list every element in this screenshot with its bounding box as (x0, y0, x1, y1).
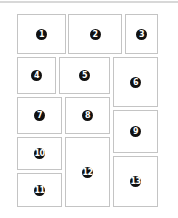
panel-number-badge: 13 (130, 176, 141, 187)
panel-number-badge: 5 (79, 70, 90, 81)
panel-number-badge: 4 (31, 70, 42, 81)
panel-6: 6 (113, 57, 158, 107)
panel-number-badge: 10 (34, 148, 45, 159)
panel-number-badge: 12 (82, 167, 93, 178)
panel-number-badge: 11 (34, 185, 45, 196)
panel-number-badge: 7 (34, 110, 45, 121)
top-divider (0, 1, 178, 3)
panel-1: 1 (17, 14, 66, 54)
panel-number-badge: 3 (136, 29, 147, 40)
panel-3: 3 (125, 14, 158, 54)
panel-10: 10 (17, 137, 62, 170)
panel-number-badge: 8 (82, 110, 93, 121)
panel-13: 13 (113, 156, 158, 207)
panel-8: 8 (65, 97, 110, 134)
panel-5: 5 (59, 57, 110, 94)
panel-11: 11 (17, 173, 62, 207)
panel-number-badge: 9 (130, 126, 141, 137)
panel-9: 9 (113, 110, 158, 153)
panel-4: 4 (17, 57, 56, 94)
panel-7: 7 (17, 97, 62, 134)
panel-12: 12 (65, 137, 110, 207)
panel-number-badge: 1 (36, 29, 47, 40)
panel-number-badge: 2 (90, 29, 101, 40)
panel-number-badge: 6 (130, 77, 141, 88)
panel-2: 2 (68, 14, 122, 54)
